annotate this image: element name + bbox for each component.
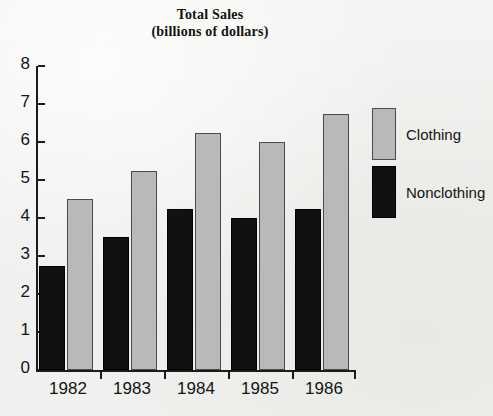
x-axis-label-1982: 1982 <box>36 380 100 398</box>
legend-label-clothing: Clothing <box>406 126 461 143</box>
y-tick-label: 1 <box>21 321 30 339</box>
bar-nonclothing-1983 <box>103 237 129 370</box>
bar-nonclothing-1982 <box>39 266 65 371</box>
x-tick-mark-end <box>354 372 356 379</box>
page-title: Total Sales <box>0 6 420 23</box>
y-tick-mark <box>38 255 45 257</box>
legend-swatch-nonclothing <box>372 166 396 218</box>
y-tick-7: 7 <box>36 103 45 105</box>
y-axis-line <box>36 66 38 372</box>
y-tick-label: 5 <box>21 169 30 187</box>
bar-nonclothing-1984 <box>167 209 193 371</box>
x-tick-mark <box>164 372 166 379</box>
plot-area: 012345678 19821983198419851986 <box>36 66 356 372</box>
y-tick-mark <box>38 179 45 181</box>
y-tick-label: 8 <box>21 55 30 73</box>
legend-label-nonclothing: Nonclothing <box>406 184 485 201</box>
x-tick-mark <box>292 372 294 379</box>
y-tick-label: 0 <box>21 359 30 377</box>
y-tick-3: 3 <box>36 255 45 257</box>
y-tick-mark <box>38 217 45 219</box>
x-tick-mark <box>100 372 102 379</box>
y-tick-mark <box>38 141 45 143</box>
x-axis-line <box>36 370 356 372</box>
y-tick-mark <box>38 103 45 105</box>
bar-nonclothing-1985 <box>231 218 257 370</box>
x-axis-label-1985: 1985 <box>228 380 292 398</box>
bar-clothing-1984 <box>195 133 221 371</box>
x-axis-label-1986: 1986 <box>292 380 356 398</box>
y-tick-6: 6 <box>36 141 45 143</box>
x-axis-label-1983: 1983 <box>100 380 164 398</box>
y-tick-4: 4 <box>36 217 45 219</box>
legend-item-nonclothing: Nonclothing <box>372 166 485 218</box>
y-tick-label: 4 <box>21 207 30 225</box>
y-tick-5: 5 <box>36 179 45 181</box>
chart-subtitle: (billions of dollars) <box>0 23 420 40</box>
chart-title-block: Total Sales (billions of dollars) <box>0 6 420 40</box>
bar-nonclothing-1986 <box>295 209 321 371</box>
x-tick-mark <box>228 372 230 379</box>
y-tick-label: 2 <box>21 283 30 301</box>
legend-swatch-clothing <box>372 108 396 160</box>
y-tick-label: 6 <box>21 131 30 149</box>
y-tick-label: 7 <box>21 93 30 111</box>
y-tick-mark <box>38 65 45 67</box>
bar-clothing-1983 <box>131 171 157 371</box>
y-tick-8: 8 <box>36 65 45 67</box>
bar-clothing-1985 <box>259 142 285 370</box>
legend-item-clothing: Clothing <box>372 108 461 160</box>
bar-chart: Total Sales (billions of dollars) 012345… <box>0 0 493 416</box>
x-axis-label-1984: 1984 <box>164 380 228 398</box>
y-tick-label: 3 <box>21 245 30 263</box>
bar-clothing-1982 <box>67 199 93 370</box>
bar-clothing-1986 <box>323 114 349 371</box>
